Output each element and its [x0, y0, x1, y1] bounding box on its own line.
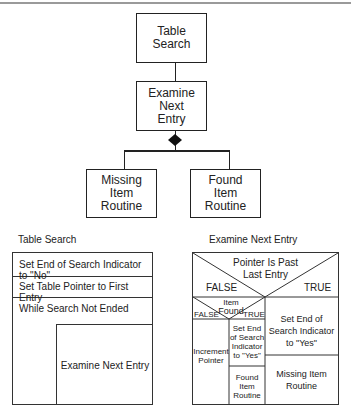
inner-condition-line: Found: [216, 307, 246, 316]
condition-text: Pointer Is Past Last Entry: [193, 257, 338, 281]
connector: [124, 150, 126, 169]
ns-loop-header: While Search Not Ended: [13, 298, 152, 314]
node-text: Routine: [205, 200, 246, 213]
cell-text: Item: [229, 382, 265, 391]
node-found-item-routine: FoundItemRoutine: [190, 169, 261, 218]
cell-text: Missing Item: [265, 368, 338, 380]
branch-line: [124, 150, 230, 152]
left-ns-diagram: Set End of Search Indicator to "No" Set …: [12, 252, 153, 405]
cell-text: to "Yes": [265, 337, 338, 349]
left-diagram-title: Table Search: [18, 234, 76, 245]
cell-text: Set End of: [265, 313, 338, 325]
found-item-routine-cell: Found Item Routine: [229, 373, 265, 400]
set-end-yes-cell: Set End of Search Indicator to "Yes": [229, 324, 265, 360]
cell-text: Search Indicator: [265, 325, 338, 337]
cell-text: of Search: [229, 333, 265, 342]
cell-text: Set End: [229, 324, 265, 333]
missing-item-routine-cell: Missing Item Routine: [265, 368, 338, 392]
ns-loop-body: Examine Next Entry: [56, 324, 153, 405]
false-label: FALSE: [206, 282, 237, 293]
ns-row: Set End of Search Indicator to "No": [13, 253, 152, 277]
cell-text: Increment: [193, 347, 229, 356]
node-text: Routine: [101, 200, 142, 213]
cell-text: Found: [229, 373, 265, 382]
ns-row: Set Table Pointer to First Entry: [13, 277, 152, 298]
inner-condition-text: Item Found: [216, 298, 246, 316]
cell-text: Indicator: [229, 342, 265, 351]
cell-text: Routine: [229, 391, 265, 400]
inner-true-label: TRUE: [243, 310, 265, 319]
cell-text: Pointer: [193, 356, 229, 365]
set-end-of-search-yes-cell: Set End of Search Indicator to "Yes": [265, 313, 338, 349]
node-missing-item-routine: MissingItemRoutine: [86, 169, 157, 218]
cell-text: to "Yes": [229, 351, 265, 360]
true-label: TRUE: [304, 282, 331, 293]
increment-pointer-cell: Increment Pointer: [193, 347, 229, 365]
connector: [229, 150, 231, 169]
right-ns-diagram: Pointer Is Past Last Entry FALSE TRUE It…: [192, 252, 339, 405]
condition-line: Pointer Is Past: [193, 257, 338, 269]
right-diagram-title: Examine Next Entry: [209, 234, 297, 245]
condition-line: Last Entry: [193, 269, 338, 281]
cell-text: Routine: [265, 380, 338, 392]
inner-false-label: FALSE: [194, 310, 219, 319]
